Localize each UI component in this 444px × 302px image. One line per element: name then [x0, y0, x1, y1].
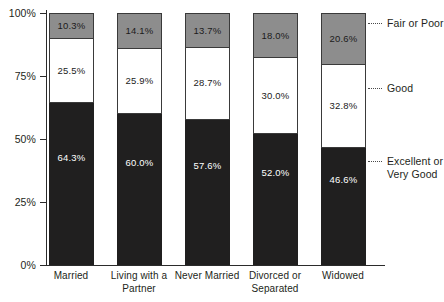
bar-group-never-married: 13.7% 28.7% 57.6% [185, 13, 230, 265]
y-tick-50: 50% [15, 133, 46, 145]
bar-segment-excellent-or-very-good: 46.6% [321, 148, 366, 265]
bar-segment-value: 30.0% [262, 91, 290, 101]
legend-label: Excellent or Very Good [387, 155, 443, 180]
bar-segment-value: 32.8% [330, 101, 358, 111]
bar-segment-value: 60.0% [126, 158, 154, 168]
bar-segment-fair-or-poor: 20.6% [321, 13, 366, 65]
bar-segment-good: 28.7% [185, 48, 230, 120]
bar-segment-value: 64.3% [58, 153, 86, 163]
bar-segment-value: 28.7% [194, 78, 222, 88]
bar-segment-good: 32.8% [321, 65, 366, 148]
legend-item-fair-or-poor: Fair or Poor [368, 17, 444, 30]
bar-segment-fair-or-poor: 18.0% [253, 13, 298, 58]
y-tick-label-25: 25% [15, 196, 36, 208]
stacked-bar-chart: 100% 75% 50% 25% 0% 10.3% 25.5% [0, 0, 444, 302]
bar-segment-value: 46.6% [330, 175, 358, 185]
leader-line-icon [368, 88, 382, 90]
bar-segment-good: 25.9% [117, 49, 162, 114]
bar-group-widowed: 20.6% 32.8% 46.6% [321, 13, 366, 265]
bar-segment-good: 25.5% [49, 39, 94, 103]
bar-segment-fair-or-poor: 10.3% [49, 13, 94, 39]
bar-segment-value: 14.1% [126, 26, 154, 36]
x-axis-label-widowed: Widowed [300, 270, 386, 283]
bar-group-living-with-a-partner: 14.1% 25.9% 60.0% [117, 13, 162, 265]
bar-segment-value: 18.0% [262, 31, 290, 41]
bar-segment-value: 25.9% [126, 76, 154, 86]
legend-label: Fair or Poor [387, 17, 444, 30]
leader-line-icon [368, 23, 382, 25]
bar-segment-value: 10.3% [58, 21, 86, 31]
bar-segment-value: 13.7% [194, 26, 222, 36]
y-tick-100: 100% [9, 7, 46, 19]
legend-item-excellent-or-very-good: Excellent or Very Good [368, 155, 443, 180]
bar-segment-excellent-or-very-good: 64.3% [49, 103, 94, 265]
bar-segment-fair-or-poor: 13.7% [185, 13, 230, 48]
bar-segment-value: 25.5% [58, 66, 86, 76]
bar-group-married: 10.3% 25.5% 64.3% [49, 13, 94, 265]
bar-segment-excellent-or-very-good: 52.0% [253, 134, 298, 265]
bar-segment-value: 57.6% [194, 161, 222, 171]
y-tick-75: 75% [15, 70, 46, 82]
bar-segment-value: 20.6% [330, 34, 358, 44]
bar-segment-fair-or-poor: 14.1% [117, 13, 162, 49]
legend-item-good: Good [368, 82, 413, 95]
bar-segment-value: 52.0% [262, 168, 290, 178]
bar-segment-excellent-or-very-good: 57.6% [185, 120, 230, 265]
bar-segment-excellent-or-very-good: 60.0% [117, 114, 162, 265]
bar-group-divorced-or-separated: 18.0% 30.0% 52.0% [253, 13, 298, 265]
plot-area: 10.3% 25.5% 64.3% 14.1% 25.9% 60.0% 13.7… [46, 13, 380, 265]
legend-label: Good [387, 82, 413, 95]
y-axis: 100% 75% 50% 25% 0% [0, 0, 46, 302]
y-tick-label-50: 50% [15, 133, 36, 145]
leader-line-icon [368, 161, 382, 163]
y-tick-label-100: 100% [9, 7, 36, 19]
y-tick-25: 25% [15, 196, 46, 208]
bar-segment-good: 30.0% [253, 58, 298, 134]
y-tick-label-75: 75% [15, 70, 36, 82]
